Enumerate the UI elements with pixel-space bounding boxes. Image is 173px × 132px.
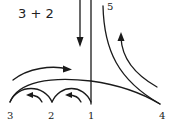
- curve-5-to-4: [103, 6, 160, 104]
- point-label-2: 2: [48, 110, 54, 121]
- point-label-1: 1: [88, 110, 94, 121]
- diagram-canvas: 3 + 2 3 2 1 4 5: [0, 0, 173, 132]
- arc-3-to-4: [10, 79, 160, 104]
- small-left-arrow-icon-2: [65, 92, 81, 102]
- diagram-title: 3 + 2: [18, 6, 54, 21]
- curved-right-arrow-icon: [13, 66, 72, 81]
- point-label-5: 5: [107, 1, 113, 12]
- down-arrow-icon: [77, 0, 84, 47]
- point-label-4: 4: [159, 110, 165, 121]
- small-left-arrow-icon-1: [26, 92, 42, 102]
- curved-up-arrow-icon: [118, 32, 158, 87]
- point-label-3: 3: [7, 110, 13, 121]
